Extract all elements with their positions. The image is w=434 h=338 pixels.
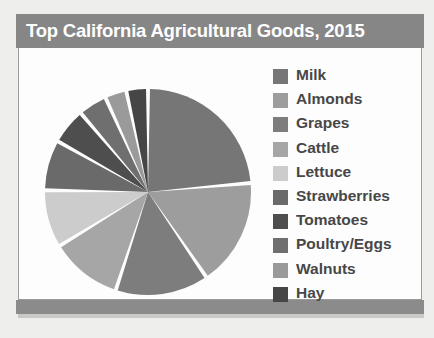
legend-item: Walnuts <box>273 260 423 284</box>
pie-slice-group <box>45 89 251 295</box>
legend-swatch-icon <box>273 263 288 278</box>
legend-swatch-icon <box>273 214 288 229</box>
legend-item-label: Strawberries <box>296 187 390 205</box>
legend-item-label: Cattle <box>296 139 339 157</box>
legend-item-label: Tomatoes <box>296 211 368 229</box>
legend-item: Milk <box>273 66 423 90</box>
legend-swatch-icon <box>273 190 288 205</box>
chart-legend: MilkAlmondsGrapesCattleLettuceStrawberri… <box>273 66 423 308</box>
legend-swatch-icon <box>273 69 288 84</box>
page-title: Top California Agricultural Goods, 2015 <box>26 20 365 42</box>
legend-swatch-icon <box>273 238 288 253</box>
legend-item: Tomatoes <box>273 211 423 235</box>
legend-swatch-icon <box>273 287 288 302</box>
figure-footer-shadow <box>18 314 424 318</box>
legend-swatch-icon <box>273 142 288 157</box>
legend-item-label: Lettuce <box>296 163 351 181</box>
pie-chart <box>42 86 254 298</box>
legend-item-label: Hay <box>296 284 324 302</box>
legend-item-label: Poultry/Eggs <box>296 235 392 253</box>
legend-item: Hay <box>273 284 423 308</box>
legend-item-label: Almonds <box>296 90 362 108</box>
legend-item-label: Walnuts <box>296 260 356 278</box>
legend-item: Almonds <box>273 90 423 114</box>
chart-figure: Top California Agricultural Goods, 2015 … <box>16 14 424 318</box>
legend-item: Lettuce <box>273 163 423 187</box>
chart-title-bar: Top California Agricultural Goods, 2015 <box>16 14 424 48</box>
legend-item: Strawberries <box>273 187 423 211</box>
legend-swatch-icon <box>273 93 288 108</box>
legend-swatch-icon <box>273 117 288 132</box>
legend-item: Poultry/Eggs <box>273 235 423 259</box>
legend-item-label: Grapes <box>296 114 349 132</box>
pie-slice <box>148 89 250 192</box>
legend-item: Grapes <box>273 114 423 138</box>
legend-item-label: Milk <box>296 66 326 84</box>
legend-swatch-icon <box>273 166 288 181</box>
legend-item: Cattle <box>273 139 423 163</box>
